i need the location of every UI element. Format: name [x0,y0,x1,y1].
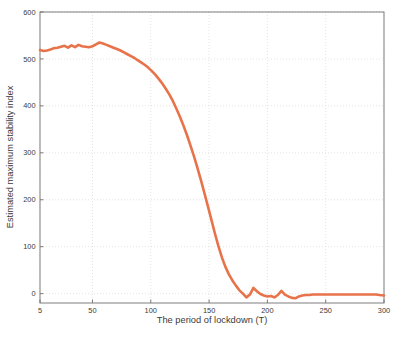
x-tick-label: 150 [203,306,215,315]
y-tick-label: 500 [23,55,35,64]
y-tick-label: 100 [23,242,35,251]
x-tick-label: 300 [378,306,390,315]
y-tick-label: 0 [31,289,35,298]
y-axis-title: Estimated maximum stability index [5,85,15,228]
y-tick-label: 300 [23,148,35,157]
x-tick-label: 5 [38,306,42,315]
x-tick-label: 200 [261,306,273,315]
stability-index-line-chart: 550100150200250300 0100200300400500600 T… [0,0,397,339]
x-tick-label: 50 [88,306,96,315]
y-tick-label: 200 [23,195,35,204]
figure-container: 550100150200250300 0100200300400500600 T… [0,0,397,339]
x-axis-title: The period of lockdown (T) [157,315,268,325]
y-tick-label: 400 [23,101,35,110]
x-tick-label: 250 [320,306,332,315]
y-tick-label: 600 [23,8,35,17]
x-tick-label: 100 [145,306,157,315]
